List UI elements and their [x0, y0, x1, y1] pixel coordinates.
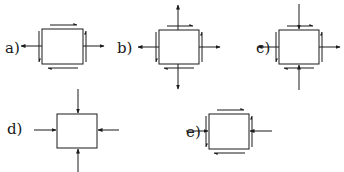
element-square	[57, 114, 97, 148]
panel-e: e)	[186, 110, 272, 153]
panel-d: d)	[7, 89, 119, 172]
element-square	[209, 114, 249, 149]
panel-a-label: a)	[5, 39, 20, 57]
panel-c: c)	[256, 4, 340, 90]
element-square	[42, 29, 83, 64]
panel-b: b)	[117, 5, 220, 89]
element-square	[159, 30, 199, 64]
panel-a: a)	[5, 25, 104, 68]
stress-diagram: a) b) c) d)	[0, 0, 344, 172]
panel-b-label: b)	[117, 39, 132, 57]
element-square	[279, 30, 319, 64]
panel-e-label: e)	[186, 123, 201, 141]
panel-d-label: d)	[7, 120, 22, 138]
panel-c-label: c)	[256, 39, 270, 57]
